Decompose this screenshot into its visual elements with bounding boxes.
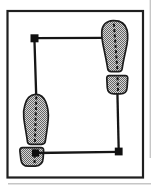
bottom-right-node: [115, 148, 123, 156]
top-left-node: [31, 34, 39, 42]
step-diagram: [0, 0, 152, 185]
left-heel-node: [32, 149, 39, 156]
right-footprint-axis-1: [118, 77, 119, 92]
right-line: [117, 93, 118, 151]
left-footprint-heel: [20, 148, 44, 167]
page: [0, 0, 152, 185]
bottom-line: [36, 152, 119, 153]
left-footprint-axis-0: [35, 97, 36, 143]
